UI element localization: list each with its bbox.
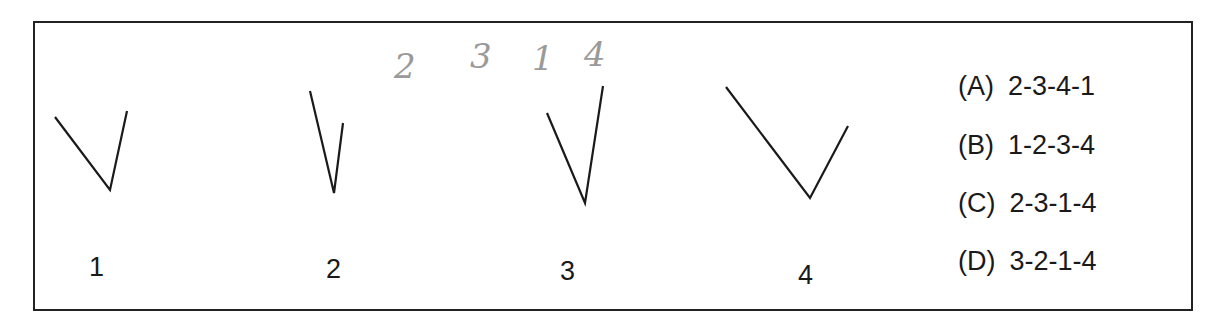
handwritten-note-4: 4 [584, 34, 606, 74]
angle-figures [0, 0, 1229, 329]
option-letter: (B) [958, 130, 994, 160]
angle-figure-4 [726, 87, 848, 198]
option-c: (C)2-3-1-4 [958, 190, 1097, 217]
option-a: (A)2-3-4-1 [958, 73, 1095, 100]
figure-label-1: 1 [89, 254, 104, 281]
option-letter: (C) [958, 188, 995, 218]
option-letter: (A) [958, 71, 994, 101]
option-value: 3-2-1-4 [1009, 246, 1096, 276]
option-letter: (D) [958, 246, 995, 276]
option-value: 2-3-1-4 [1009, 188, 1096, 218]
angle-figure-3 [547, 86, 603, 203]
angle-figure-1 [55, 111, 127, 190]
figure-label-2: 2 [326, 256, 341, 283]
angle-figure-2 [310, 91, 343, 193]
option-value: 1-2-3-4 [1008, 130, 1095, 160]
option-b: (B)1-2-3-4 [958, 132, 1095, 159]
handwritten-note-2: 3 [470, 36, 492, 76]
figure-label-3: 3 [560, 258, 575, 285]
option-d: (D)3-2-1-4 [958, 248, 1097, 275]
option-value: 2-3-4-1 [1008, 71, 1095, 101]
handwritten-note-1: 2 [394, 46, 416, 86]
handwritten-note-3: 1 [532, 38, 554, 78]
figure-label-4: 4 [798, 262, 813, 289]
